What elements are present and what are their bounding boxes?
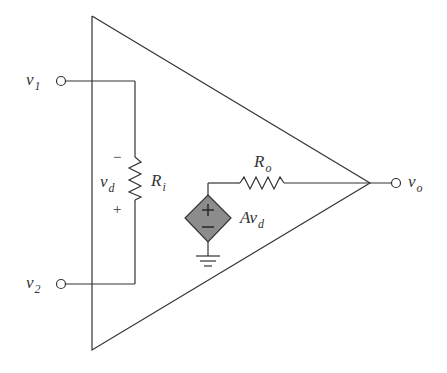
dependent-source [185, 195, 231, 242]
terminal-v2 [57, 280, 66, 289]
label-vd: vd [100, 173, 115, 190]
label-ri: Ri [151, 172, 166, 189]
terminal-vo [392, 179, 401, 188]
resistor-ro [240, 177, 284, 189]
label-v2: v2 [26, 274, 41, 291]
resistor-ri [129, 157, 141, 200]
label-vo: vo [408, 173, 423, 190]
label-v1: v1 [26, 71, 41, 88]
terminal-v1 [57, 77, 66, 86]
label-avd: Avd [240, 209, 264, 226]
vd-minus-sign: − [113, 150, 121, 165]
vd-plus-sign: + [113, 202, 121, 217]
opamp-circuit [0, 0, 447, 373]
label-ro: Ro [254, 153, 271, 170]
